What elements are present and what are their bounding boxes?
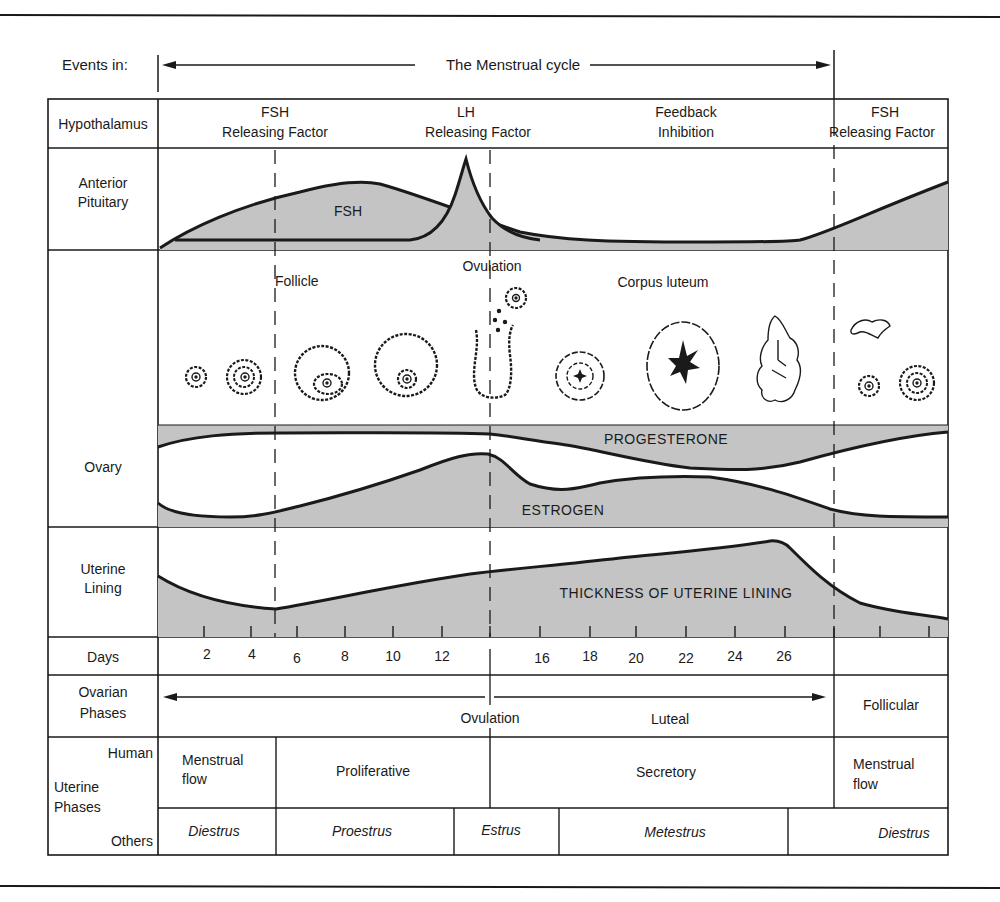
feedback-line2: Inhibition [658,124,714,140]
progesterone-label: PROGESTERONE [604,431,728,447]
arrow-right-icon [812,693,826,701]
day-label: 12 [434,648,450,664]
pituitary-plot: FSH [160,159,948,250]
menstrual-flow-1-line1: Menstrual [182,752,243,768]
row-label-others: Others [111,833,153,849]
uterine-lining-plot: THICKNESS OF UTERINE LINING [158,541,948,637]
row-label-hypothalamus: Hypothalamus [58,116,148,132]
row-label-human: Human [108,745,153,761]
other-phase-estrus: Estrus [481,822,521,838]
day-label: 16 [534,650,550,666]
row-label-lining: Lining [84,580,121,596]
row-label-days: Days [87,649,119,665]
lh-rf-line2: Releasing Factor [425,124,531,140]
row-label-pituitary: Pituitary [78,194,129,210]
top-rule [0,15,1000,17]
lh-rf-line1: LH [457,104,475,120]
ovulation-phase-label: Ovulation [460,710,519,726]
row-label-phases: Phases [80,705,127,721]
fsh-rf-1-line2: Releasing Factor [222,124,328,140]
other-phase-diestrus-1: Diestrus [188,823,239,839]
follicular-phase-label: Follicular [863,697,919,713]
early-corpus-luteum-icon [556,352,604,400]
ovulating-follicle-icon [474,288,526,398]
day-label: 2 [203,646,211,662]
row-label-ovary: Ovary [84,459,121,475]
menstrual-flow-1-line2: flow [182,771,208,787]
other-phase-proestrus: Proestrus [332,823,392,839]
fsh-rf-2-line1: FSH [871,104,899,120]
other-phase-metestrus: Metestrus [644,824,705,840]
fsh-label: FSH [334,203,362,219]
day-label: 20 [628,650,644,666]
day-label: 22 [678,650,694,666]
day-label: 18 [582,648,598,664]
fsh-rf-1-line1: FSH [261,104,289,120]
new-primordial-follicle-icon [859,376,879,396]
primary-follicle-icon [227,360,261,394]
uterine-thickness-label: THICKNESS OF UTERINE LINING [560,585,793,601]
other-species-phases-row: Diestrus Proestrus Estrus Metestrus Dies… [188,808,929,855]
day-label: 4 [248,646,256,662]
primordial-follicle-icon [186,367,206,387]
row-label-uterine-phases-2: Phases [54,799,101,815]
row-label-uterine-phases-1: Uterine [54,779,99,795]
day-label: 6 [293,650,301,666]
day-label: 10 [385,648,401,664]
proliferative-label: Proliferative [336,763,410,779]
other-phase-diestrus-2: Diestrus [878,825,929,841]
menstrual-flow-2-line2: flow [853,776,879,792]
regressing-corpus-luteum-icon [757,316,800,402]
luteal-phase-label: Luteal [651,711,689,727]
bottom-rule [0,886,1000,888]
day-label: 26 [776,648,792,664]
ovary-hormone-plot: PROGESTERONE ESTROGEN [158,425,948,527]
secondary-follicle-icon [295,346,349,400]
events-label: Events in: [62,56,128,73]
row-label-ovarian: Ovarian [78,684,127,700]
days-row: 2 4 6 8 10 12 16 18 20 22 24 26 [203,637,834,675]
follicle-illustrations [186,288,934,410]
mature-corpus-luteum-icon [647,322,719,410]
corpus-albicans-icon [851,320,890,338]
ovulation-stage-label: Ovulation [462,258,521,274]
arrow-left-icon [162,61,176,69]
day-label: 24 [727,648,743,664]
graafian-follicle-icon [375,334,437,396]
new-primary-follicle-icon [900,366,934,400]
row-label-anterior: Anterior [78,175,127,191]
menstrual-flow-2-line1: Menstrual [853,756,914,772]
secretory-label: Secretory [636,764,696,780]
row-label-uterine: Uterine [80,561,125,577]
fsh-rf-2-line2: Releasing Factor [829,124,935,140]
estrogen-label: ESTROGEN [522,502,605,518]
uterine-thickness-curve [158,541,948,637]
cycle-label: The Menstrual cycle [446,56,580,73]
arrow-right-icon [816,61,831,69]
day-label: 8 [341,648,349,664]
corpus-luteum-label: Corpus luteum [617,274,708,290]
arrow-left-icon [163,693,177,701]
menstrual-cycle-diagram: Events in: The Menstrual cycle Hypothala… [0,0,1000,902]
follicle-label: Follicle [275,273,319,289]
feedback-line1: Feedback [655,104,717,120]
human-uterine-phases-row: Menstrual flow Proliferative Secretory M… [182,737,914,855]
